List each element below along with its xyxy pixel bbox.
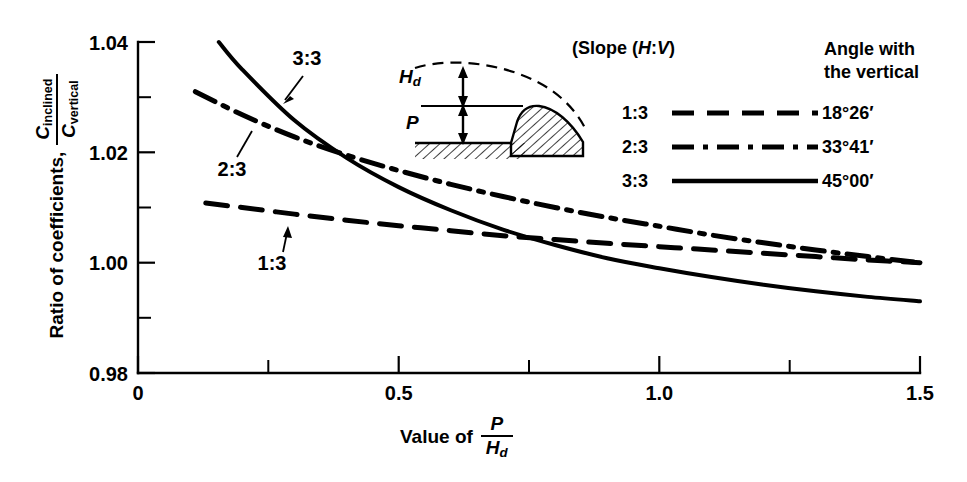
legend-angle-title-line1: Angle with xyxy=(824,38,919,61)
x-axis-title-text: Value of xyxy=(400,426,473,448)
curve-tag-3-3: 3:3 xyxy=(293,47,322,69)
legend-row: 3:3 45°00′ xyxy=(560,164,960,198)
x-tick-label: 0.5 xyxy=(385,382,413,404)
y-tick-labels: 1.04 1.02 1.00 0.98 xyxy=(89,32,129,385)
x-axis-title: Value of P Hd xyxy=(400,414,513,460)
y-axis-title: Ratio of coefficients, Cinclined Cvertic… xyxy=(41,46,73,366)
dimension-hd xyxy=(458,66,468,108)
x-den-subscript: d xyxy=(500,445,508,460)
y-tick-label: 0.98 xyxy=(89,363,128,385)
y-axis-minor-ticks xyxy=(138,97,151,318)
x-den-symbol: H xyxy=(486,437,500,458)
legend-angle-value: 33°41′ xyxy=(822,137,874,158)
annotation-leader-1-3 xyxy=(283,226,292,252)
curve-tag-2-3: 2:3 xyxy=(218,158,247,180)
curve-tag-1-3: 1:3 xyxy=(258,252,287,274)
inset-label-head: Hd xyxy=(399,66,421,89)
annotation-leader-2-3 xyxy=(237,131,252,157)
y-num-subscript: inclined xyxy=(41,79,55,126)
legend-line-sample-solid xyxy=(670,172,820,190)
x-axis-minor-ticks xyxy=(268,360,789,373)
legend-row: 2:3 33°41′ xyxy=(560,130,960,164)
dimension-p xyxy=(458,104,468,145)
figure-root: 1.04 1.02 1.00 0.98 0 0.5 1.0 1.5 3 xyxy=(0,0,967,482)
y-tick-label: 1.00 xyxy=(89,252,128,274)
x-tick-labels: 0 0.5 1.0 1.5 xyxy=(132,382,933,404)
legend-slope-label: 1:3 xyxy=(560,103,666,124)
x-tick-label: 0 xyxy=(132,382,143,404)
y-num-symbol: C xyxy=(32,126,53,140)
x-num-symbol: P xyxy=(485,414,508,435)
inset-label-height: P xyxy=(406,112,419,134)
legend-line-sample-dashed xyxy=(670,104,820,122)
legend-angle-title: Angle with the vertical xyxy=(824,38,919,83)
y-tick-label: 1.04 xyxy=(89,32,129,54)
legend-angle-value: 18°26′ xyxy=(822,103,874,124)
legend-slope-label: 3:3 xyxy=(560,171,666,192)
y-den-subscript: vertical xyxy=(67,80,81,124)
legend-angle-value: 45°00′ xyxy=(822,171,874,192)
legend-header: (Slope (H:V) Angle with the vertical xyxy=(560,36,960,96)
y-tick-label: 1.02 xyxy=(89,142,128,164)
legend: (Slope (H:V) Angle with the vertical 1:3… xyxy=(560,36,960,198)
legend-line-sample-dashdot xyxy=(670,138,820,156)
annotation-leader-3-3 xyxy=(283,76,303,104)
x-tick-label: 1.5 xyxy=(906,382,934,404)
legend-angle-title-line2: the vertical xyxy=(824,61,919,84)
curve-slope-1-3 xyxy=(206,203,920,263)
ground-hatch xyxy=(415,143,525,159)
y-axis-title-fraction: Cinclined Cvertical xyxy=(33,74,80,145)
legend-slope-title: (Slope (H:V) xyxy=(572,38,675,59)
x-tick-label: 1.0 xyxy=(645,382,673,404)
legend-row: 1:3 18°26′ xyxy=(560,96,960,130)
legend-slope-label: 2:3 xyxy=(560,137,666,158)
x-axis-title-fraction: P Hd xyxy=(481,414,513,460)
y-den-symbol: C xyxy=(58,124,79,138)
y-axis-title-text: Ratio of coefficients, xyxy=(46,152,68,339)
